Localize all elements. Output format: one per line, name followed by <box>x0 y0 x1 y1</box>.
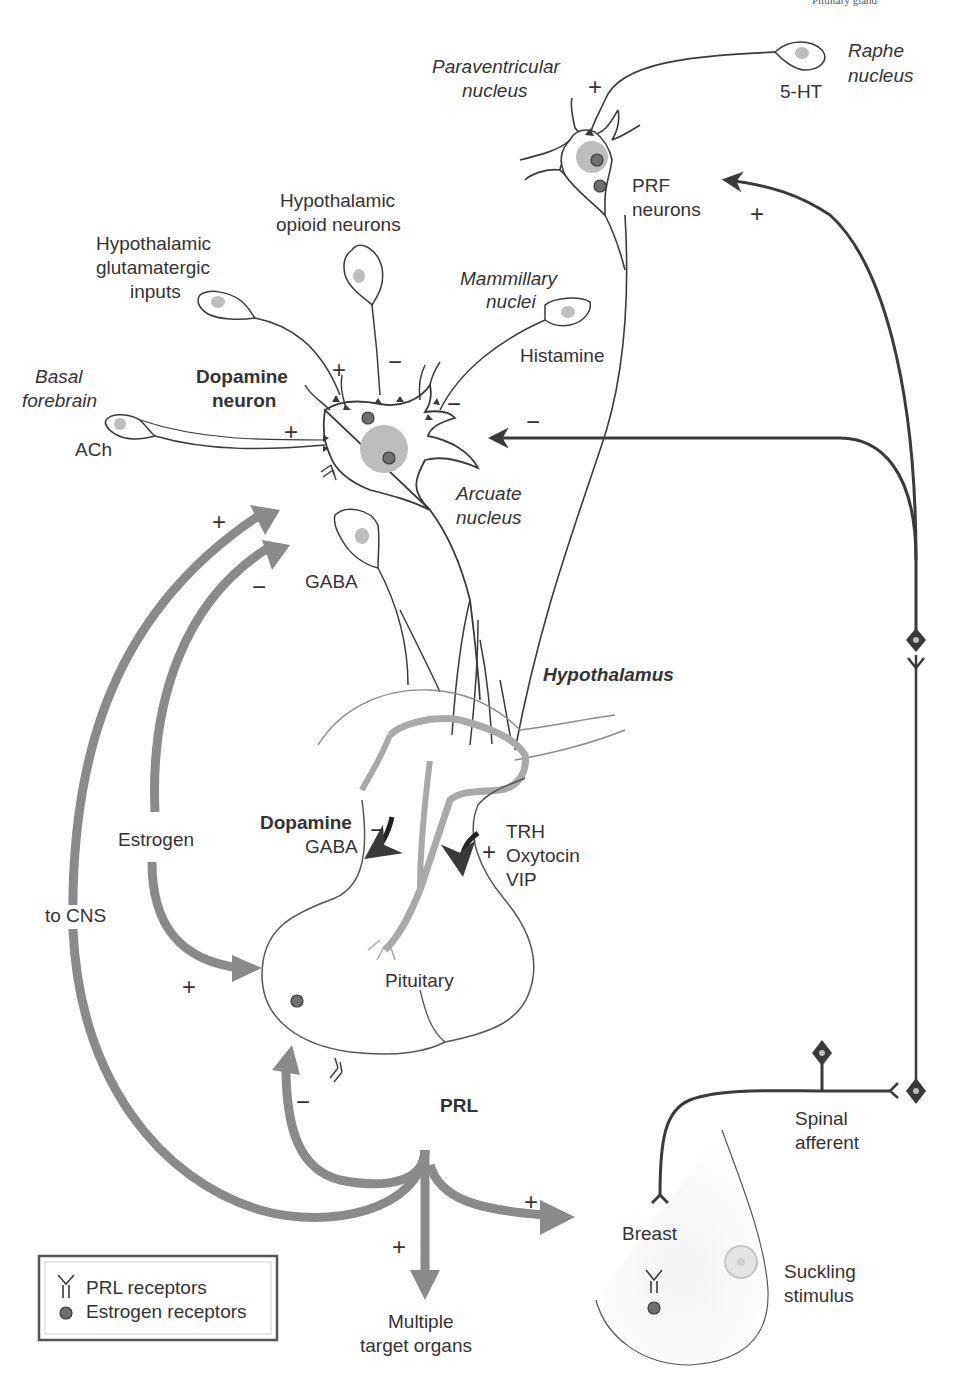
plus-sign: + <box>750 200 764 227</box>
spinal-label-1: Spinal <box>795 1108 848 1129</box>
minus-sign: − <box>252 573 266 600</box>
gaba-release-label: GABA <box>305 836 358 857</box>
arcuate-label-1: Arcuate <box>455 483 521 504</box>
prl-label: PRL <box>440 1095 478 1116</box>
serotonin-label: 5-HT <box>780 81 823 102</box>
estrogen-label: Estrogen <box>118 829 194 850</box>
prl-receptor-icon <box>330 1058 342 1082</box>
prf-label-1: PRF <box>632 175 670 196</box>
basal-label-2: forebrain <box>22 390 97 411</box>
suckling-label-1: Suckling <box>784 1261 856 1282</box>
header-fragment: Pituitary gland <box>812 0 878 6</box>
glutamatergic-label-3: inputs <box>130 281 181 302</box>
opioid-neuron <box>344 245 383 395</box>
mammillary-label-2: nuclei <box>486 291 536 312</box>
opioid-label-1: Hypothalamic <box>280 190 395 211</box>
oxytocin-label: Oxytocin <box>506 845 580 866</box>
targets-label-2: target organs <box>360 1335 472 1356</box>
glutamatergic-label-2: glutamatergic <box>96 257 210 278</box>
breast-label: Breast <box>622 1223 678 1244</box>
raphe-label-1: Raphe <box>848 40 904 61</box>
prolactin-regulation-diagram: Pituitary gland Raphe nucleus 5-HT Parav… <box>0 0 956 1382</box>
glutamatergic-label-1: Hypothalamic <box>96 233 211 254</box>
prl-receptor-icon <box>321 465 336 480</box>
suckling-label-2: stimulus <box>784 1285 854 1306</box>
minus-sign: − <box>388 348 402 375</box>
pituitary-label: Pituitary <box>385 970 454 991</box>
opioid-label-2: opioid neurons <box>276 214 401 235</box>
afferent-to-prf-arrow <box>726 180 916 640</box>
legend: PRL receptors Estrogen receptors <box>39 1256 277 1340</box>
plus-sign: + <box>482 838 496 865</box>
hypothalamus-label: Hypothalamus <box>543 664 674 685</box>
plus-sign: + <box>182 973 196 1000</box>
plus-sign: + <box>332 356 346 383</box>
minus-sign: − <box>526 408 540 435</box>
arcuate-label-2: nucleus <box>456 507 522 528</box>
raphe-label-2: nucleus <box>848 65 914 86</box>
legend-item-estrogen-receptors: Estrogen receptors <box>86 1301 247 1322</box>
prf-label-2: neurons <box>632 199 701 220</box>
paraventricular-label-1: Paraventricular <box>432 56 560 77</box>
mammillary-label-1: Mammillary <box>460 268 559 289</box>
hypothalamus-outline <box>318 690 615 745</box>
legend-item-prl-receptors: PRL receptors <box>86 1277 207 1298</box>
minus-sign: − <box>296 1088 310 1115</box>
trh-label: TRH <box>506 821 545 842</box>
estrogen-receptor-icon <box>60 1307 72 1319</box>
stimulatory-release-arrow <box>462 833 478 870</box>
afferent-to-dopamine-arrow <box>492 438 916 560</box>
plus-sign: + <box>284 418 298 445</box>
paraventricular-label-2: nucleus <box>462 80 528 101</box>
minus-sign: − <box>370 816 384 843</box>
targets-label-1: Multiple <box>388 1311 453 1332</box>
histamine-label: Histamine <box>520 345 604 366</box>
plus-sign: + <box>392 1233 406 1260</box>
dopamine-neuron-label-2: neuron <box>212 390 276 411</box>
prf-neuron <box>520 98 640 270</box>
prl-negative-feedback-arrow <box>286 1060 425 1184</box>
dopamine-release-label: Dopamine <box>260 812 352 833</box>
ach-label: ACh <box>75 439 112 460</box>
prl-to-cns-arrow <box>73 515 425 1218</box>
estrogen-receptor-icon <box>291 995 303 1007</box>
plus-sign: + <box>524 1188 538 1215</box>
basal-label-1: Basal <box>35 366 83 387</box>
vip-label: VIP <box>506 869 537 890</box>
plus-sign: + <box>588 73 602 100</box>
to-cns-label: to CNS <box>45 905 106 926</box>
estrogen-receptor-icon <box>648 1302 660 1314</box>
plus-sign: + <box>212 508 226 535</box>
estrogen-to-pituitary-arrow <box>152 862 240 968</box>
spinal-label-2: afferent <box>795 1132 860 1153</box>
dopamine-neuron-label-1: Dopamine <box>196 366 288 387</box>
gaba-neuron-label: GABA <box>305 571 358 592</box>
